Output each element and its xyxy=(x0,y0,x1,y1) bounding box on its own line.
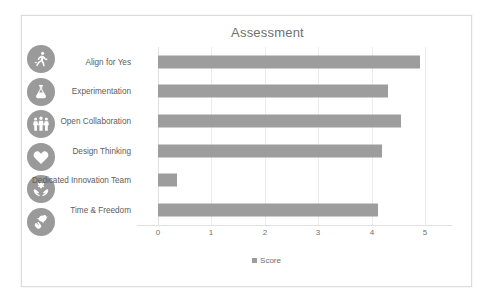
x-axis: 0 1 2 3 4 5 xyxy=(137,225,452,241)
bar-category-label: Dedicated Innovation Team xyxy=(32,176,131,185)
bar-experimentation[interactable] xyxy=(158,85,388,98)
x-tick-label: 4 xyxy=(370,228,374,237)
screenshot-root: Assessment xyxy=(0,0,492,301)
legend-item-score[interactable]: Score xyxy=(252,256,281,265)
heart-brain-icon xyxy=(27,143,55,171)
bar-category-label: Design Thinking xyxy=(72,146,131,155)
bar-time-and-freedom[interactable] xyxy=(158,203,378,216)
bar-category-label: Experimentation xyxy=(72,87,131,96)
legend-label: Score xyxy=(260,256,281,265)
bar-align-for-yes[interactable] xyxy=(158,55,420,68)
bar-category-label: Open Collaboration xyxy=(60,116,131,125)
lab-flask-icon xyxy=(27,78,55,106)
x-axis-line xyxy=(137,225,452,226)
icon-rail xyxy=(27,45,61,235)
bar-row: Dedicated Innovation Team xyxy=(137,165,452,195)
hand-releasing-bird-icon xyxy=(27,208,55,236)
bar-dedicated-innovation-team[interactable] xyxy=(158,174,177,187)
x-tick-label: 1 xyxy=(209,228,213,237)
x-tick-label: 0 xyxy=(156,228,160,237)
chart-card: Assessment xyxy=(21,15,472,287)
bar-row: Open Collaboration xyxy=(137,106,452,136)
chart-legend: Score xyxy=(22,249,471,267)
bar-row: Time & Freedom xyxy=(137,195,452,225)
collaborating-people-icon xyxy=(27,110,55,138)
chart-title: Assessment xyxy=(22,25,471,40)
legend-swatch-icon xyxy=(252,258,257,263)
bar-category-label: Time & Freedom xyxy=(70,205,131,214)
bar-row: Experimentation xyxy=(137,77,452,107)
bar-design-thinking[interactable] xyxy=(158,144,382,157)
x-tick-label: 5 xyxy=(423,228,427,237)
plot-area: Align for Yes Experimentation Open Colla… xyxy=(137,47,452,225)
bar-row: Align for Yes xyxy=(137,47,452,77)
bar-row: Design Thinking xyxy=(137,136,452,166)
bar-category-label: Align for Yes xyxy=(85,57,131,66)
x-tick-label: 3 xyxy=(316,228,320,237)
running-person-icon xyxy=(27,45,55,73)
bar-open-collaboration[interactable] xyxy=(158,114,401,127)
x-tick-label: 2 xyxy=(263,228,267,237)
